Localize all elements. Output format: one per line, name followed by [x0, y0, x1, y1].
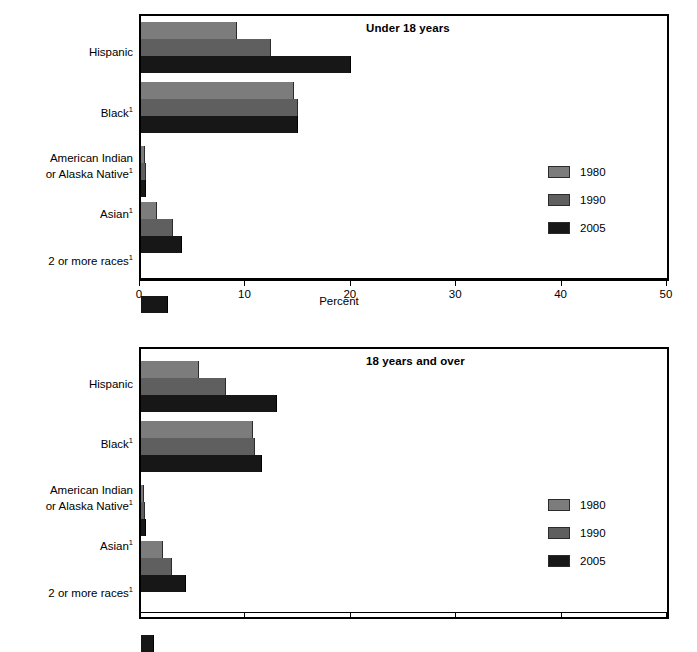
bar-1980	[141, 82, 294, 99]
x-tick-30	[455, 612, 456, 618]
x-tick-0	[139, 612, 140, 618]
x-tick-label-10: 10	[224, 288, 264, 300]
bar-1990	[141, 438, 255, 455]
bar-2005	[141, 635, 154, 652]
bar-1990	[141, 39, 271, 56]
footnote-marker: 1	[129, 253, 133, 262]
x-tick-label-30: 30	[435, 288, 475, 300]
bar-1990	[141, 558, 172, 575]
bar-group	[141, 22, 668, 73]
legend-swatch-1990	[548, 194, 570, 206]
cat-text: Black	[101, 107, 129, 119]
x-tick-20	[350, 280, 351, 286]
cat-text: American Indian	[50, 152, 133, 164]
legend-label-1990: 1990	[580, 524, 606, 542]
bar-1980	[141, 485, 144, 502]
x-tick-label-0: 0	[119, 288, 159, 300]
bar-2005	[141, 395, 277, 412]
x-tick-20	[350, 612, 351, 618]
footnote-marker: 1	[129, 206, 133, 215]
cat-text: or Alaska Native	[46, 168, 129, 180]
legend-label-1980: 1980	[580, 496, 606, 514]
bars-area-bottom	[141, 349, 668, 617]
x-tick-10	[244, 280, 245, 286]
cat-label-hispanic-top: Hispanic	[0, 45, 133, 59]
cat-text: American Indian	[50, 484, 133, 496]
x-tick-40	[561, 612, 562, 618]
cat-label-aian-bottom-line2: or Alaska Native1	[0, 499, 133, 513]
legend-swatch-2005	[548, 555, 570, 567]
x-tick-50	[666, 280, 667, 286]
bar-1990	[141, 163, 146, 180]
bar-1980	[141, 421, 253, 438]
bar-2005	[141, 236, 182, 253]
bar-1980	[141, 361, 199, 378]
cat-label-aian-bottom: American Indian	[0, 483, 133, 497]
bar-1990	[141, 502, 145, 519]
legend-label-2005: 2005	[580, 219, 606, 237]
footnote-marker: 1	[129, 436, 133, 445]
cat-label-two-or-more-top: 2 or more races1	[0, 254, 133, 268]
bar-2005	[141, 116, 298, 133]
cat-text: Hispanic	[89, 378, 133, 390]
legend-top: 198019902005	[548, 163, 668, 241]
footnote-marker: 1	[129, 538, 133, 547]
cat-text: Black	[101, 438, 129, 450]
x-tick-label-40: 40	[541, 288, 581, 300]
cat-label-black-bottom: Black1	[0, 437, 133, 451]
legend-label-2005: 2005	[580, 552, 606, 570]
bar-group	[141, 82, 668, 133]
bar-2005	[141, 575, 186, 592]
footnote-marker: 1	[129, 105, 133, 114]
bar-2005	[141, 180, 146, 197]
cat-text: 2 or more races	[48, 255, 129, 267]
x-axis-top: 01020304050	[139, 280, 669, 281]
bar-1980	[141, 541, 163, 558]
bar-1980	[141, 22, 237, 39]
x-tick-label-50: 50	[646, 288, 686, 300]
panel-18-and-over: 18 years and over Hispanic Black1 Americ…	[0, 306, 697, 612]
x-tick-30	[455, 280, 456, 286]
legend-swatch-1980	[548, 166, 570, 178]
x-tick-10	[244, 612, 245, 618]
x-tick-0	[139, 280, 140, 286]
cat-label-asian-top: Asian1	[0, 207, 133, 221]
legend-label-1980: 1980	[580, 163, 606, 181]
panel-under-18: Under 18 years Hispanic Black1 American …	[0, 0, 697, 306]
footnote-marker: 1	[129, 585, 133, 594]
x-tick-50	[666, 612, 667, 618]
footnote-marker: 1	[129, 498, 133, 507]
x-axis-bottom	[139, 612, 669, 613]
legend-label-1990: 1990	[580, 191, 606, 209]
cat-label-hispanic-bottom: Hispanic	[0, 377, 133, 391]
legend-bottom: 198019902005	[548, 496, 668, 574]
bar-1980	[141, 202, 157, 219]
bar-group	[141, 421, 668, 472]
bar-1990	[141, 219, 173, 236]
bar-1990	[141, 378, 226, 395]
cat-label-aian-top: American Indian	[0, 151, 133, 165]
bar-2005	[141, 519, 146, 536]
legend-swatch-1980	[548, 499, 570, 511]
cat-text: or Alaska Native	[46, 500, 129, 512]
cat-label-aian-top-line2: or Alaska Native1	[0, 167, 133, 181]
legend-swatch-1990	[548, 527, 570, 539]
cat-text: Asian	[100, 540, 129, 552]
cat-text: Asian	[100, 208, 129, 220]
cat-text: 2 or more races	[48, 587, 129, 599]
cat-label-two-or-more-bottom: 2 or more races1	[0, 586, 133, 600]
bar-group	[141, 361, 668, 412]
cat-label-black-top: Black1	[0, 106, 133, 120]
bar-2005	[141, 455, 262, 472]
bar-group	[141, 601, 668, 652]
bar-1990	[141, 99, 298, 116]
bar-1980	[141, 146, 145, 163]
cat-text: Hispanic	[89, 46, 133, 58]
legend-swatch-2005	[548, 222, 570, 234]
bar-2005	[141, 56, 351, 73]
x-tick-40	[561, 280, 562, 286]
footnote-marker: 1	[129, 166, 133, 175]
cat-label-asian-bottom: Asian1	[0, 539, 133, 553]
